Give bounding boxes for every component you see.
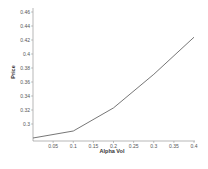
x-tick-label: 0.15 <box>89 143 99 149</box>
price-line <box>33 37 194 138</box>
y-tick-label: 0.46 <box>20 9 30 15</box>
y-tick-label: 0.4 <box>23 51 30 57</box>
y-tick-label: 0.38 <box>20 65 30 71</box>
x-tick-label: 0.1 <box>70 143 77 149</box>
y-tick-label: 0.42 <box>20 37 30 43</box>
y-tick-label: 0.3 <box>23 121 30 127</box>
y-tick-label: 0.44 <box>20 23 30 29</box>
x-axis-label: Alpha Vol <box>100 148 125 154</box>
series-layer <box>33 37 194 138</box>
y-axis: 0.30.320.340.360.380.40.420.440.46 <box>20 8 33 141</box>
y-tick-label: 0.34 <box>20 93 30 99</box>
x-tick-label: 0.4 <box>191 143 198 149</box>
y-tick-label: 0.32 <box>20 107 30 113</box>
line-chart: 0.30.320.340.360.380.40.420.440.46 0.050… <box>0 0 208 169</box>
y-tick-label: 0.36 <box>20 79 30 85</box>
x-tick-label: 0.05 <box>48 143 58 149</box>
x-tick-label: 0.35 <box>169 143 179 149</box>
y-axis-label: Price <box>10 65 16 78</box>
x-tick-label: 0.25 <box>129 143 139 149</box>
x-tick-label: 0.3 <box>150 143 157 149</box>
